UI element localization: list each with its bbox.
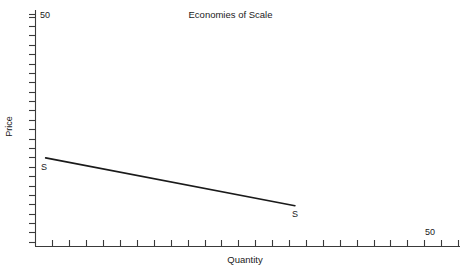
x-axis-max-tick-label: 50: [425, 228, 435, 237]
x-axis-title: Quantity: [125, 255, 365, 265]
series-line-s: [46, 158, 295, 206]
chart-canvas: Economies of Scale Price Quantity 50 50 …: [0, 0, 461, 270]
y-axis-max-tick-label: 50: [40, 11, 50, 20]
y-axis-title: Price: [5, 107, 14, 147]
plot-area: [0, 0, 461, 270]
y-axis-ticks: [29, 15, 36, 243]
series-layer: [46, 158, 295, 206]
curve-label-right: S: [292, 210, 298, 219]
chart-title: Economies of Scale: [0, 10, 461, 20]
curve-label-left: S: [41, 163, 47, 172]
x-axis-ticks: [53, 240, 459, 247]
